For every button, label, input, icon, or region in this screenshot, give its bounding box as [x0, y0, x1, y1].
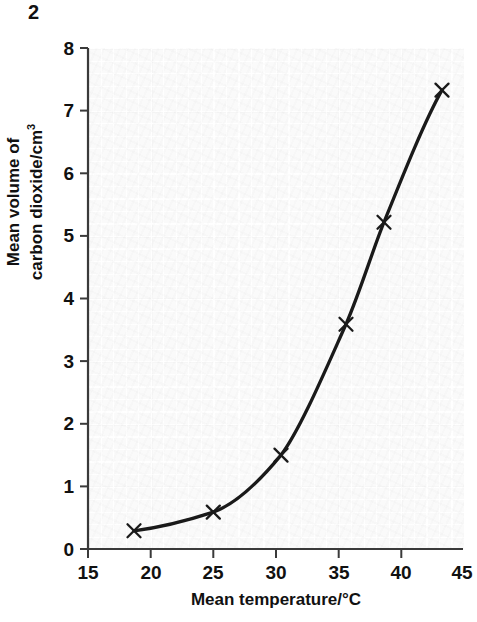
data-point — [275, 449, 288, 462]
x-tick-label-35: 35 — [319, 563, 359, 582]
y-tick-label-2: 2 — [48, 414, 74, 433]
y-axis-ticks — [80, 48, 88, 549]
data-curve — [134, 90, 442, 531]
y-axis-title: Mean volume of carbon dioxide/cm3 — [2, 72, 66, 332]
y-tick-label-8: 8 — [48, 39, 74, 58]
x-axis-title: Mean temperature/°C — [88, 590, 464, 610]
data-point — [340, 318, 353, 331]
x-tick-label-30: 30 — [256, 563, 296, 582]
y-axis-title-superscript: 3 — [25, 124, 37, 130]
x-tick-label-45: 45 — [442, 563, 477, 582]
y-axis-title-line1: Mean volume of — [4, 138, 23, 266]
x-tick-label-20: 20 — [131, 563, 171, 582]
data-point-markers — [128, 84, 449, 538]
y-tick-label-1: 1 — [48, 477, 74, 496]
data-point — [378, 216, 391, 229]
x-axis-ticks — [88, 549, 463, 558]
y-tick-label-0: 0 — [48, 540, 74, 559]
y-axis-title-line2: carbon dioxide/cm — [27, 130, 46, 280]
x-tick-label-40: 40 — [381, 563, 421, 582]
x-tick-label-15: 15 — [68, 563, 108, 582]
y-tick-label-3: 3 — [48, 352, 74, 371]
x-tick-label-25: 25 — [193, 563, 233, 582]
data-point — [436, 84, 449, 97]
